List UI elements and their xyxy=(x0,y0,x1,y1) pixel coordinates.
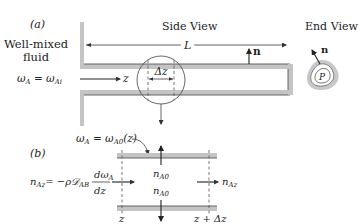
svg-text:dωA: dωA xyxy=(94,169,114,182)
part-a: (a) Side View End View Well-mixed fluid … xyxy=(4,18,359,126)
element-wall-top xyxy=(117,153,217,158)
delta-z-label: Δz xyxy=(153,65,168,77)
inlet-condition: ωA = ωAi xyxy=(17,72,62,86)
z-axis-arrow: z xyxy=(80,72,129,84)
reservoir-wall-lower xyxy=(80,90,84,126)
end-view: P n xyxy=(307,44,339,90)
normal-vector-side: n xyxy=(249,45,261,64)
svg-text:dz: dz xyxy=(94,185,106,196)
mass-transfer-diagram: (a) Side View End View Well-mixed fluid … xyxy=(0,0,363,224)
reservoir-wall-upper xyxy=(80,22,84,68)
pipe-side-view xyxy=(80,22,293,126)
side-view-title: Side View xyxy=(162,20,218,33)
part-b-label: (b) xyxy=(30,147,46,160)
tube-wall-top xyxy=(80,64,292,69)
end-view-title: End View xyxy=(305,20,358,33)
svg-text:nA0: nA0 xyxy=(153,185,170,198)
part-a-label: (a) xyxy=(30,18,45,31)
tube-end-wall xyxy=(288,64,293,95)
right-bound-label: z + Δz xyxy=(193,213,227,224)
z-axis-label: z xyxy=(122,72,129,84)
flux-equation: nAz= −ρ𝒟AB dωA dz xyxy=(30,169,134,196)
svg-text:ωA = ωA0(z): ωA = ωA0(z) xyxy=(76,132,137,146)
svg-text:nA0: nA0 xyxy=(153,168,170,181)
svg-text:nAz= −ρ𝒟AB: nAz= −ρ𝒟AB xyxy=(30,176,89,189)
wall-condition: ωA = ωA0(z) xyxy=(76,132,148,154)
svg-text:nAz: nAz xyxy=(222,176,238,189)
normal-label-side: n xyxy=(253,45,261,57)
tube-wall-bottom xyxy=(80,90,292,95)
svg-text:ωA = ωAi: ωA = ωAi xyxy=(17,72,62,86)
fluid-label-line1: Well-mixed xyxy=(4,37,69,51)
normal-label-end: n xyxy=(321,44,329,55)
zoom-circle xyxy=(137,56,185,104)
part-b: (b) ωA = ωA0(z) nA0 nA0 nAz= −ρ𝒟AB dωA d… xyxy=(30,132,238,224)
fluid-label-line2: fluid xyxy=(23,50,50,64)
length-label: L xyxy=(183,39,191,52)
element-wall-bottom xyxy=(117,206,217,211)
left-bound-label: z xyxy=(118,213,125,224)
perimeter-label: P xyxy=(318,72,326,82)
